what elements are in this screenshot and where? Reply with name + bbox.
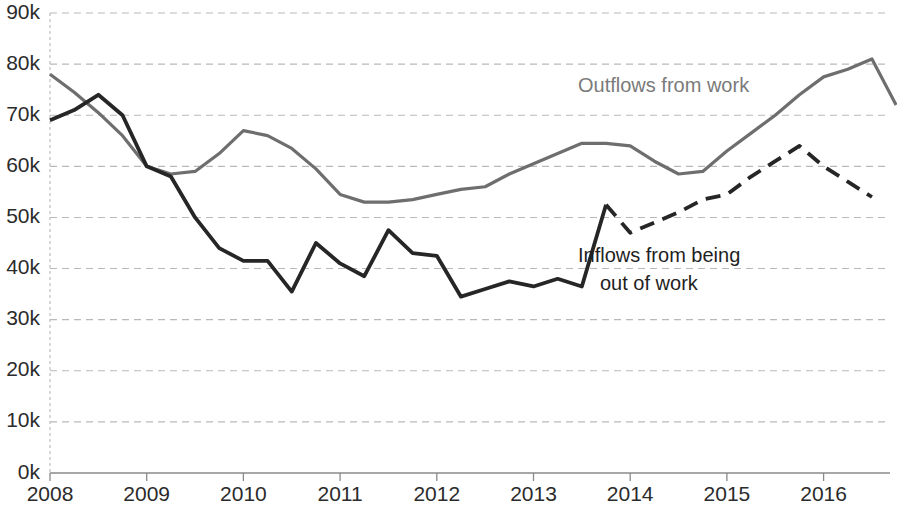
x-axis-label-2013: 2013 [510,482,557,505]
y-axis-label-0k: 0k [18,460,41,483]
chart-canvas: 90k80k70k60k50k40k30k20k10k0k 2008200920… [0,0,897,508]
y-axis-label-80k: 80k [6,51,40,74]
inflows-series-label-line-2: out of work [600,272,699,294]
line-chart: 90k80k70k60k50k40k30k20k10k0k 2008200920… [0,0,897,508]
y-axis-label-10k: 10k [6,408,40,431]
x-axis-label-2008: 2008 [27,482,74,505]
x-axis-label-2012: 2012 [413,482,460,505]
x-axis-label-2010: 2010 [220,482,267,505]
y-axis-label-90k: 90k [6,0,40,23]
x-axis-label-2015: 2015 [704,482,751,505]
x-axis-label-2014: 2014 [607,482,654,505]
x-axis-labels: 200820092010201120122013201420152016 [27,482,847,505]
x-axis-label-2009: 2009 [123,482,170,505]
inflows-series-label-line-1: Inflows from being [578,244,740,266]
y-axis-label-70k: 70k [6,102,40,125]
outflows-series-label: Outflows from work [578,74,750,96]
x-axis-label-2016: 2016 [800,482,847,505]
y-axis-label-60k: 60k [6,153,40,176]
y-axis-label-20k: 20k [6,357,40,380]
y-axis-label-30k: 30k [6,306,40,329]
x-axis-label-2011: 2011 [318,482,363,505]
chart-background [0,0,897,508]
y-axis-label-50k: 50k [6,204,40,227]
y-axis-label-40k: 40k [6,255,40,278]
